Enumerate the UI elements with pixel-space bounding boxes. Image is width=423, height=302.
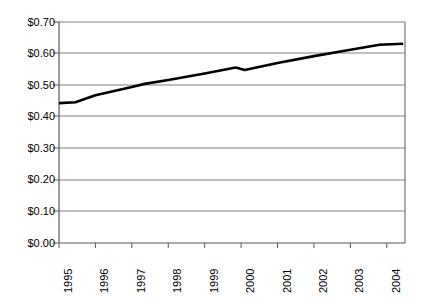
x-axis-labels: 1995199619971998199920002001200220032004 [0, 0, 423, 302]
x-axis-tick-label: 1999 [209, 269, 220, 293]
x-axis-tick-label: 1996 [99, 269, 110, 293]
x-axis-tick-label: 1997 [136, 269, 147, 293]
x-axis-tick-label: 1995 [63, 269, 74, 293]
x-axis-tick-label: 2001 [282, 269, 293, 293]
x-axis-tick-label: 2000 [245, 269, 256, 293]
x-axis-tick-label: 2004 [391, 269, 402, 293]
line-chart: $0.70$0.60$0.50$0.40$0.30$0.20$0.10$0.00… [0, 0, 423, 302]
x-axis-tick-label: 2002 [318, 269, 329, 293]
x-axis-tick-label: 1998 [172, 269, 183, 293]
x-axis-tick-label: 2003 [354, 269, 365, 293]
